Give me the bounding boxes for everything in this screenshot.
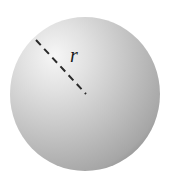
radius-label: r: [70, 44, 78, 66]
sphere-diagram: r: [0, 0, 171, 183]
